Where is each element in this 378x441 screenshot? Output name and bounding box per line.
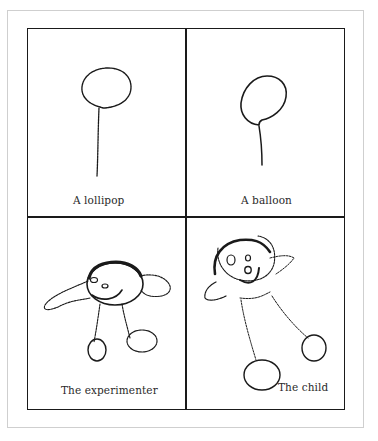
experimenter-drawing xyxy=(44,262,170,361)
caption-experimenter: The experimenter xyxy=(61,384,158,396)
child-drawing xyxy=(205,236,326,390)
caption-balloon: A balloon xyxy=(241,194,292,206)
caption-lollipop: A lollipop xyxy=(73,194,124,206)
caption-child: The child xyxy=(278,381,328,393)
drawings-layer xyxy=(0,0,378,441)
lollipop-drawing xyxy=(82,68,131,176)
balloon-drawing xyxy=(241,76,286,165)
